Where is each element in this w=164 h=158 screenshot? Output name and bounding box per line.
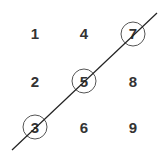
tic-tac-toe-diagram: 1 4 7 2 5 8 3 6 9 bbox=[0, 0, 164, 158]
digit-2: 2 bbox=[31, 73, 39, 90]
digit-9: 9 bbox=[129, 119, 137, 136]
cell-2: 2 bbox=[31, 73, 39, 90]
cell-4: 4 bbox=[80, 25, 89, 42]
digit-6: 6 bbox=[80, 119, 88, 136]
cell-1: 1 bbox=[31, 25, 39, 42]
cell-7: 7 bbox=[121, 22, 145, 46]
cell-9: 9 bbox=[129, 119, 137, 136]
digit-1: 1 bbox=[31, 25, 39, 42]
digit-4: 4 bbox=[80, 25, 89, 42]
cell-6: 6 bbox=[80, 119, 88, 136]
digit-8: 8 bbox=[129, 73, 137, 90]
cell-8: 8 bbox=[129, 73, 137, 90]
